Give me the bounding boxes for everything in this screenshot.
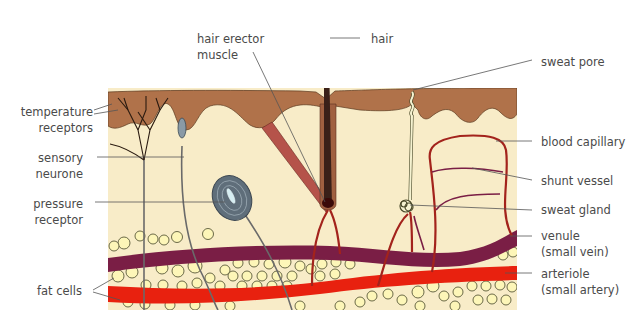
label-sweat-gland: sweat gland: [541, 202, 611, 218]
sweat-gland: [400, 200, 413, 212]
label-fat-cells: fat cells: [37, 283, 82, 299]
label-arteriole: arteriole (small artery): [541, 266, 619, 298]
label-hair-erector-muscle: hair erector muscle: [197, 31, 264, 63]
label-hair: hair: [371, 31, 393, 47]
label-sensory-neurone: sensory neurone: [35, 150, 83, 182]
label-venule: venule (small vein): [541, 228, 609, 260]
skin-cross-section-diagram: [0, 0, 627, 323]
label-sweat-pore: sweat pore: [541, 54, 605, 70]
label-shunt-vessel: shunt vessel: [541, 173, 613, 189]
touch-receptor: [178, 118, 186, 138]
label-blood-capillary: blood capillary: [541, 134, 625, 150]
label-pressure-receptor: pressure receptor: [33, 196, 83, 228]
label-temperature-receptors: temperature receptors: [21, 104, 93, 136]
